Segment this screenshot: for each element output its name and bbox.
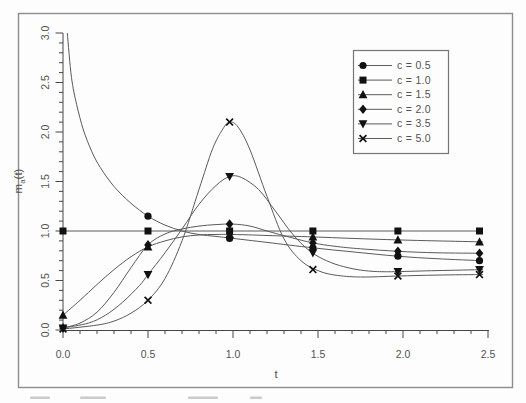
cropped-caption-fragment <box>30 397 50 400</box>
y-tick-label: 3.0 <box>39 26 51 41</box>
marker-square-c-1.0 <box>476 228 483 235</box>
cropped-caption-fragment <box>250 397 262 400</box>
legend-label-c-2.0: c = 2.0 <box>397 103 431 115</box>
line-chart: 0.00.51.01.52.02.50.00.51.01.52.02.53.0t… <box>0 0 526 403</box>
marker-circle-c-0.5 <box>144 213 151 220</box>
x-tick-label: 0.0 <box>56 348 71 360</box>
legend-marker-circle <box>359 62 366 69</box>
y-tick-label: 0.0 <box>39 323 51 338</box>
marker-square-c-1.0 <box>60 228 67 235</box>
marker-square-c-1.0 <box>145 228 152 235</box>
cropped-caption-fragment <box>80 397 106 400</box>
y-tick-label: 1.5 <box>39 174 51 189</box>
y-tick-label: 1.0 <box>39 224 51 239</box>
y-tick-label: 2.0 <box>39 125 51 140</box>
legend-label-c-0.5: c = 0.5 <box>397 59 431 71</box>
figure-panel: 0.00.51.01.52.02.50.00.51.01.52.02.53.0t… <box>0 0 526 403</box>
y-tick-label: 0.5 <box>39 273 51 288</box>
legend-label-c-1.5: c = 1.5 <box>397 88 431 100</box>
x-tick-label: 2.5 <box>481 348 496 360</box>
x-tick-label: 2.0 <box>396 348 411 360</box>
legend-label-c-3.5: c = 3.5 <box>397 117 431 129</box>
marker-square-c-1.0 <box>394 228 401 235</box>
x-tick-label: 0.5 <box>141 348 156 360</box>
x-tick-label: 1.0 <box>226 348 241 360</box>
legend-label-c-5.0: c = 5.0 <box>397 132 431 144</box>
y-tick-label: 2.5 <box>39 75 51 90</box>
cropped-caption-fragment <box>188 397 218 400</box>
x-tick-label: 1.5 <box>311 348 326 360</box>
legend-marker-square <box>360 77 367 84</box>
legend-label-c-1.0: c = 1.0 <box>397 74 431 86</box>
marker-circle-c-0.5 <box>476 257 483 264</box>
